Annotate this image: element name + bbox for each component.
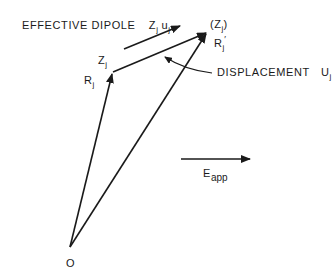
zj-corner-sub: j bbox=[105, 60, 107, 69]
eapp-e: E bbox=[203, 167, 211, 179]
displacement-pointer-arrow bbox=[165, 57, 212, 73]
eapp-label: Eapp bbox=[203, 168, 228, 179]
effective-dipole-text: EFFECTIVE DIPOLE bbox=[22, 19, 136, 31]
eapp-sub: app bbox=[211, 172, 228, 183]
rj-label: Rj bbox=[84, 75, 94, 86]
effective-dipole-label: EFFECTIVE DIPOLE Zj uj bbox=[22, 20, 170, 31]
vector-displacement-uj bbox=[113, 33, 206, 72]
rj-prime-r: R bbox=[214, 37, 223, 49]
effective-dipole-u-sub: j bbox=[168, 25, 170, 34]
zj-tip-open: (Z bbox=[210, 18, 222, 30]
zj-tip-label: (Zj) bbox=[210, 19, 228, 30]
vector-diagram bbox=[0, 0, 332, 280]
effective-dipole-z-sub: j bbox=[156, 25, 158, 34]
displacement-label: DISPLACEMENT Uj bbox=[217, 67, 331, 78]
rj-prime-label: Rj′ bbox=[214, 38, 226, 49]
vector-rj-prime bbox=[70, 34, 206, 247]
displacement-u-sub: j bbox=[329, 72, 331, 81]
zj-corner-label: Zj bbox=[98, 55, 107, 66]
rj-r: R bbox=[84, 74, 93, 86]
displacement-text: DISPLACEMENT bbox=[217, 66, 310, 78]
origin-label: O bbox=[66, 258, 75, 269]
rj-prime-mark: ′ bbox=[224, 34, 226, 44]
vector-rj bbox=[70, 74, 112, 247]
origin-o: O bbox=[66, 257, 75, 269]
zj-tip-close: ) bbox=[223, 18, 227, 30]
